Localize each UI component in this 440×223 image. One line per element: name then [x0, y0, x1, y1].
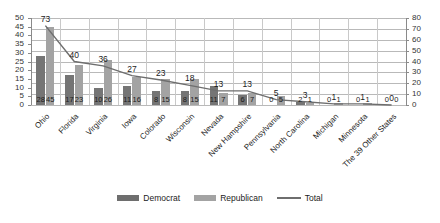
bar-value-republican: 16 [131, 96, 142, 104]
left-axis-tick: 30 [2, 49, 24, 57]
total-value-label: 73 [33, 15, 57, 24]
left-axis-tick: 15 [2, 75, 24, 83]
right-axis-tick: 20 [412, 79, 421, 87]
left-axis-tick: 50 [2, 14, 24, 22]
bar-value-republican: 26 [103, 96, 114, 104]
right-axis-tick: 0 [412, 101, 416, 109]
total-value-label: 13 [235, 80, 259, 89]
legend-item[interactable]: Republican [194, 194, 263, 203]
right-axis-tick: 80 [412, 14, 421, 22]
left-axis-tick: 10 [2, 84, 24, 92]
right-axis-tickmark [406, 105, 409, 106]
left-axis-tick: 20 [2, 66, 24, 74]
total-value-label: 3 [293, 91, 317, 100]
total-value-label: 1 [322, 93, 346, 102]
gridline [31, 105, 406, 106]
legend-item[interactable]: Democrat [117, 194, 180, 203]
right-axis-tick: 10 [412, 90, 421, 98]
total-value-label: 13 [207, 80, 231, 89]
left-axis-tick: 5 [2, 92, 24, 100]
legend-swatch-total [277, 197, 301, 199]
bar-value-republican: 23 [74, 96, 85, 104]
category-axis: OhioFloridaVirginiaIowaColoradoWisconsin… [31, 108, 406, 180]
bar-value-republican: 15 [160, 96, 171, 104]
legend-swatch-republican [194, 195, 216, 201]
bar-value-republican: 7 [218, 96, 229, 104]
right-axis-tick: 70 [412, 25, 421, 33]
left-axis-tick: 40 [2, 31, 24, 39]
legend-swatch-democrat [117, 195, 139, 201]
total-value-label: 23 [149, 69, 173, 78]
total-value-label: 1 [351, 93, 375, 102]
total-value-label: 27 [120, 65, 144, 74]
left-axis-tick: 35 [2, 40, 24, 48]
legend-label: Republican [220, 194, 263, 203]
right-axis-tick: 60 [412, 36, 421, 44]
left-axis-tick: 25 [2, 58, 24, 66]
total-value-label: 18 [178, 74, 202, 83]
legend-label: Democrat [143, 194, 180, 203]
right-axis-tick: 50 [412, 47, 421, 55]
chart-legend: DemocratRepublicanTotal [0, 190, 440, 206]
bar-value-republican: 7 [247, 96, 258, 104]
total-value-label: 0 [380, 94, 404, 103]
right-axis-line [406, 18, 407, 105]
right-axis-tick: 30 [412, 68, 421, 76]
legend-label: Total [305, 194, 323, 203]
left-axis-tick: 45 [2, 23, 24, 31]
total-value-label: 40 [62, 51, 86, 60]
right-axis-tick: 40 [412, 58, 421, 66]
legend-item[interactable]: Total [277, 194, 323, 203]
left-axis-tick: 0 [2, 101, 24, 109]
total-value-label: 5 [264, 89, 288, 98]
bar-value-republican: 45 [45, 96, 56, 104]
bar-value-republican: 15 [189, 96, 200, 104]
total-value-label: 36 [91, 55, 115, 64]
chart-container: 05101520253035404550 01020304050607080 2… [0, 0, 440, 223]
